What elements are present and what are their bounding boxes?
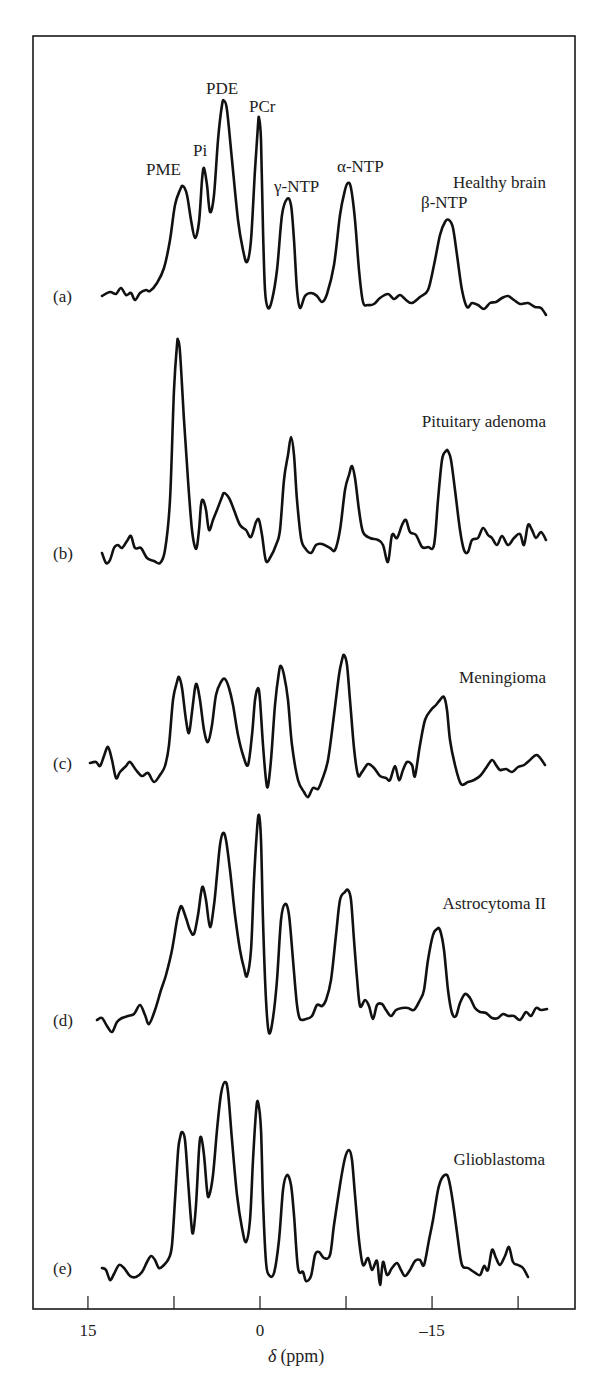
row-label-a: (a) <box>53 287 72 306</box>
x-axis-title: δ(ppm) <box>268 1346 324 1367</box>
spectrum-name-c: Meningioma <box>459 668 546 687</box>
row-label-d: (d) <box>53 1011 73 1030</box>
row-labels: (a)(b)(c)(d)(e) <box>53 287 73 1278</box>
spectrum-trace-e <box>102 1082 528 1285</box>
peak-label-pi: Pi <box>193 141 207 160</box>
spectrum-trace-a <box>102 100 546 315</box>
spectrum-name-d: Astrocytoma II <box>443 894 547 913</box>
row-label-b: (b) <box>53 544 73 563</box>
x-tick-label: 15 <box>79 1321 96 1340</box>
spectrum-name-a: Healthy brain <box>453 173 546 192</box>
peak-label-alpha-ntp: α-NTP <box>337 157 384 176</box>
spectrum-trace-b <box>102 339 546 564</box>
x-tick-label: –15 <box>418 1321 445 1340</box>
row-label-c: (c) <box>53 754 72 773</box>
spectrum-name-b: Pituitary adenoma <box>422 412 547 431</box>
peak-label-pme: PME <box>146 160 181 179</box>
x-axis-unit: (ppm) <box>280 1346 324 1367</box>
peak-label-beta-ntp: β-NTP <box>421 193 467 212</box>
nmr-spectra-figure: 150–15 (a)(b)(c)(d)(e) Healthy brainPitu… <box>0 0 600 1386</box>
x-axis-tick-labels: 150–15 <box>79 1321 444 1340</box>
peak-label-pcr: PCr <box>249 97 276 116</box>
spectrum-trace-d <box>97 815 547 1034</box>
x-axis-symbol: δ <box>268 1346 277 1366</box>
x-tick-label: 0 <box>256 1321 265 1340</box>
spectra-traces <box>90 100 547 1285</box>
peak-labels: PME Pi PDE PCr γ-NTP α-NTP β-NTP <box>146 79 467 212</box>
x-axis-ticks <box>88 1296 518 1309</box>
peak-label-gamma-ntp: γ-NTP <box>273 177 319 196</box>
peak-label-pde: PDE <box>206 79 238 98</box>
spectrum-name-e: Glioblastoma <box>453 1150 545 1169</box>
spectrum-names: Healthy brainPituitary adenomaMeningioma… <box>422 173 547 1169</box>
row-label-e: (e) <box>53 1259 72 1278</box>
